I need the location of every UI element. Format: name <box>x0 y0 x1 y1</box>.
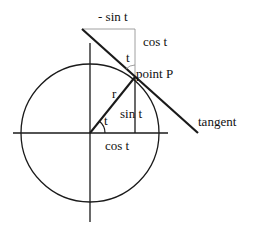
cos-top-label: cos t <box>143 34 168 49</box>
unit-circle-diagram: - sin t cos t t point P r t sin t cos t … <box>0 0 255 230</box>
cos-bottom-label: cos t <box>105 138 130 153</box>
angle-top-label: t <box>126 50 130 65</box>
neg-sin-label: - sin t <box>98 9 128 24</box>
angle-center-label: t <box>104 113 108 128</box>
point-p-label: point P <box>136 66 173 81</box>
sin-label: sin t <box>120 106 142 121</box>
tangent-label: tangent <box>198 114 237 129</box>
radius-label: r <box>112 86 117 101</box>
